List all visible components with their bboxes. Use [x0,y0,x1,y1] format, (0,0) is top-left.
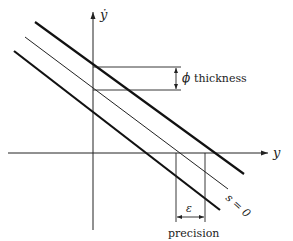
sliding-surface-line [25,37,228,189]
diagram-svg [0,0,293,241]
upper-boundary-line [35,22,244,174]
y-axis-label: y [273,146,280,159]
precision-symbol: ε [186,203,192,214]
diagram-canvas: ẏ y ϕ thickness ε precision s = 0 [0,0,293,241]
thickness-label: thickness [194,73,247,84]
y-dot-axis-label: ẏ [100,8,107,21]
thickness-symbol: ϕ [182,72,190,84]
precision-label: precision [168,228,219,239]
